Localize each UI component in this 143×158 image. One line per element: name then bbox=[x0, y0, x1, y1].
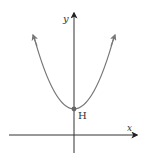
diagram-svg: y x H bbox=[0, 0, 143, 158]
curve-arrow-left bbox=[33, 35, 37, 46]
x-axis-label: x bbox=[127, 123, 132, 133]
parabola-diagram: y x H bbox=[0, 0, 143, 158]
vertex-label: H bbox=[78, 110, 87, 121]
vertex-point bbox=[72, 107, 77, 112]
y-axis-label: y bbox=[62, 13, 69, 24]
curve-arrow-right bbox=[111, 35, 115, 46]
